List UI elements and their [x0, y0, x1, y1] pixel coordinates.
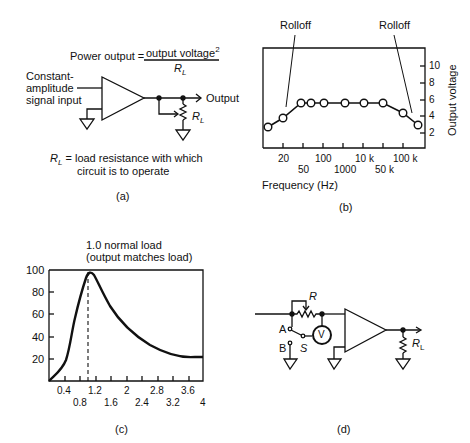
input-label-2: amplitude: [26, 83, 74, 94]
voltmeter-v-label: V: [318, 330, 325, 340]
b-label: B: [279, 343, 286, 354]
rolloff-leader-left: [286, 35, 295, 107]
rl-text: R: [192, 110, 200, 122]
panel-b-chart: [263, 35, 425, 148]
input-label-1: Constant-: [26, 71, 74, 82]
ytick-80: 80: [32, 287, 44, 298]
rolloff-right-label: Rolloff: [379, 20, 410, 31]
resistor-rl: [180, 104, 186, 120]
formula-denominator-text: R: [174, 62, 182, 74]
xtick-4: 4: [200, 398, 206, 408]
xtick-0.8: 0.8: [73, 398, 87, 408]
ytick-4: 4: [429, 111, 435, 121]
a-label: A: [279, 324, 286, 335]
annotation-output-matches: (output matches load): [86, 252, 192, 263]
rolloff-leader-right: [394, 35, 412, 113]
caption-a: (a): [116, 190, 129, 202]
formula-denominator: RL: [174, 63, 186, 77]
output-label: Output: [206, 93, 239, 104]
ground-symbol: [328, 359, 341, 369]
note-line-1-text: = load resistance with which: [62, 152, 202, 164]
ytick-20: 20: [32, 354, 44, 365]
amp-ground-wire: [87, 109, 102, 119]
xtick-3.2: 3.2: [166, 398, 180, 408]
formula-left: Power output =: [70, 51, 144, 62]
ytick-60: 60: [32, 309, 44, 320]
s-label: S: [300, 343, 307, 354]
input-label-3: signal input: [26, 95, 82, 106]
caption-b: (b): [339, 201, 352, 213]
panel-d-circuit: [255, 301, 421, 369]
xtick-50k: 50 k: [375, 165, 394, 175]
rl-label: RL: [192, 111, 204, 125]
ground-symbol: [80, 119, 94, 129]
ground-symbol: [176, 130, 190, 140]
annotation-normal-load: 1.0 normal load: [86, 240, 162, 251]
caption-d: (d): [337, 423, 350, 435]
xtick-1.2: 1.2: [88, 386, 102, 396]
note-line-2: circuit is to operate: [77, 166, 169, 177]
x-axis-label: Frequency (Hz): [262, 180, 338, 191]
ytick-6: 6: [429, 95, 435, 105]
rl-d-text: R: [412, 337, 420, 349]
note-r: R: [50, 152, 58, 164]
ground-symbol: [284, 359, 297, 369]
potentiometer-r: [292, 311, 322, 317]
xtick-0.4: 0.4: [57, 386, 71, 396]
xtick-2.4: 2.4: [135, 398, 149, 408]
rolloff-left-label: Rolloff: [280, 20, 311, 31]
ytick-2: 2: [429, 128, 435, 138]
amp-ground-wire: [334, 347, 345, 359]
xtick-2.8: 2.8: [150, 386, 164, 396]
ytick-40: 40: [32, 332, 44, 343]
amplifier-triangle: [102, 77, 144, 120]
ground-symbol: [396, 359, 410, 369]
xtick-100k: 100 k: [393, 154, 417, 164]
xtick-1.6: 1.6: [104, 398, 118, 408]
caption-c: (c): [115, 423, 128, 435]
ytick-10: 10: [429, 61, 440, 71]
power-curve: [49, 273, 203, 381]
xtick-50: 50: [298, 165, 309, 175]
formula-denominator-sub: L: [182, 68, 186, 77]
panel-c-chart: [49, 270, 203, 381]
formula-numerator-text: output voltage: [146, 47, 215, 59]
resistor-rl: [400, 337, 406, 353]
xtick-3.6: 3.6: [181, 386, 195, 396]
rl-label-d: RL: [412, 338, 424, 352]
r-label: R: [309, 291, 317, 302]
ytick-100: 100: [26, 265, 44, 276]
xtick-10k: 10 k: [355, 154, 374, 164]
formula-numerator: output voltage2: [146, 46, 220, 59]
panel-a-circuit: [77, 60, 219, 140]
xtick-100: 100: [315, 154, 332, 164]
xtick-1000: 1000: [334, 165, 356, 175]
rl-sub: L: [200, 116, 204, 125]
rl-d-sub: L: [420, 343, 424, 352]
figure-graphics: [0, 0, 470, 443]
switch-contact-b: [288, 341, 292, 345]
formula-sup: 2: [215, 45, 219, 54]
ytick-8: 8: [429, 78, 435, 88]
xtick-20: 20: [278, 154, 289, 164]
amplifier-triangle: [345, 309, 386, 352]
y-axis-label: Output voltage: [447, 64, 458, 136]
xtick-2: 2: [124, 386, 130, 396]
